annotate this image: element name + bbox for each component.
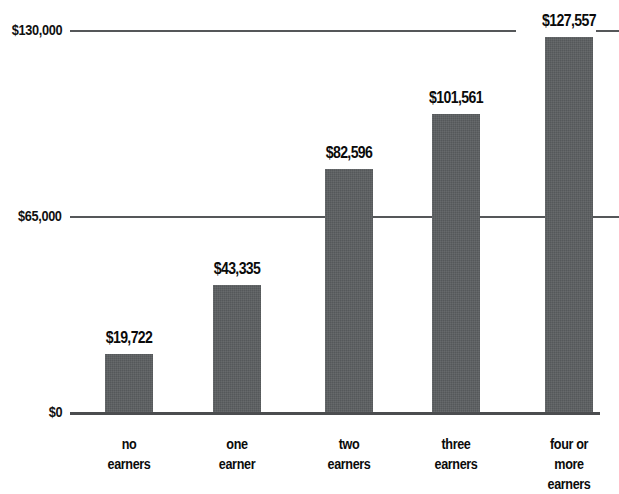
value-label-no-earners: $19,722 — [94, 329, 164, 347]
y-axis-tick-label-65000: $65,000 — [18, 208, 62, 224]
x-axis-label-three-earners: three earners — [420, 434, 492, 474]
y-axis-tick-label-130000: $130,000 — [12, 22, 62, 38]
value-label-three-earners: $101,561 — [416, 89, 495, 107]
bar-three-earners — [432, 114, 480, 412]
x-axis-label-one-earner: one earner — [201, 434, 273, 474]
value-label-two-earners: $82,596 — [314, 144, 384, 162]
bar-chart: $130,000 $65,000 $0 $19,722 $43,335 $82,… — [0, 0, 619, 494]
gridline-130000-left — [70, 30, 516, 32]
bar-four-or-more-earners — [545, 37, 593, 412]
value-label-one-earner: $43,335 — [202, 260, 272, 278]
axis-baseline-0 — [70, 412, 600, 415]
x-axis-label-four-or-more-earners: four or more earners — [533, 434, 605, 494]
bar-no-earners — [105, 354, 153, 412]
y-axis-tick-label-0: $0 — [48, 404, 62, 420]
x-axis-label-two-earners: two earners — [313, 434, 385, 474]
value-label-four-or-more-earners: $127,557 — [529, 12, 608, 30]
bar-two-earners — [325, 169, 373, 412]
x-axis-label-no-earners: no earners — [93, 434, 165, 474]
gridline-130000-right — [596, 30, 619, 32]
bar-one-earner — [213, 285, 261, 412]
